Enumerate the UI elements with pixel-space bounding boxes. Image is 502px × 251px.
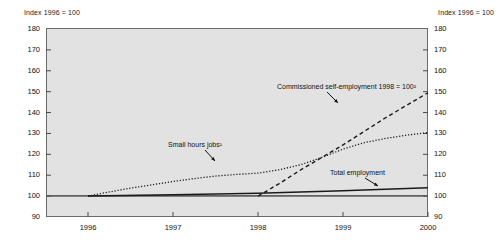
y-tick-label-left: 180 — [18, 24, 40, 33]
annotation-commissioned-self-employment: Commissioned self-employment 1998 = 100² — [277, 83, 416, 90]
series-line-1 — [258, 93, 428, 196]
x-tick-label: 1997 — [153, 223, 193, 232]
y-tick-label-right: 160 — [434, 66, 456, 75]
y-tick-label-left: 130 — [18, 128, 40, 137]
x-tick-label: 1999 — [323, 223, 363, 232]
annotation-small-hours-jobs: Small hours jobs¹ — [168, 141, 222, 148]
y-tick-label-right: 110 — [434, 170, 456, 179]
y-tick-label-left: 170 — [18, 45, 40, 54]
x-tick-label: 1998 — [238, 223, 278, 232]
x-tick-label: 2000 — [408, 223, 448, 232]
y-tick-label-left: 110 — [18, 170, 40, 179]
series-line-2 — [88, 188, 428, 196]
chart-figure: Index 1996 = 100 Index 1996 = 100 180180… — [0, 0, 502, 251]
chart-canvas — [0, 0, 502, 251]
y-tick-label-right: 100 — [434, 191, 456, 200]
y-tick-label-right: 120 — [434, 149, 456, 158]
y-tick-label-left: 160 — [18, 66, 40, 75]
y-tick-label-right: 90 — [434, 212, 456, 221]
y-tick-label-left: 120 — [18, 149, 40, 158]
y-tick-label-right: 150 — [434, 87, 456, 96]
series-line-0 — [88, 133, 428, 197]
y-tick-label-left: 140 — [18, 108, 40, 117]
series-lines — [88, 93, 428, 196]
annotation-total-employment: Total employment — [330, 169, 385, 176]
y-tick-label-left: 100 — [18, 191, 40, 200]
y-tick-label-right: 130 — [434, 128, 456, 137]
x-axis-ticks — [88, 212, 428, 217]
y-tick-label-right: 180 — [434, 24, 456, 33]
y-tick-label-left: 150 — [18, 87, 40, 96]
x-tick-label: 1996 — [68, 223, 108, 232]
y-tick-label-left: 90 — [18, 212, 40, 221]
y-tick-label-right: 140 — [434, 108, 456, 117]
y-tick-label-right: 170 — [434, 45, 456, 54]
